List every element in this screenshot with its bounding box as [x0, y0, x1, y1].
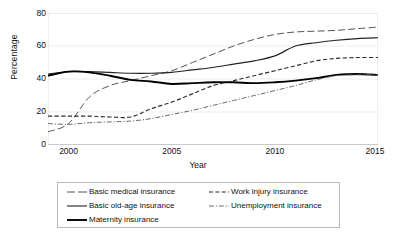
legend-label: Maternity insurance — [89, 215, 159, 224]
y-axis-tick-labels: 80 60 40 20 0 — [18, 0, 46, 150]
solid-thin-line-icon — [66, 202, 88, 210]
chart-figure: Percentage 80 60 40 20 0 2000 2005 2010 … — [0, 0, 396, 233]
legend-item-basic-medical-insurance[interactable]: Basic medical insurance — [66, 187, 175, 196]
legend-label: Basic old-age insurance — [89, 201, 174, 210]
legend-item-maternity-insurance[interactable]: Maternity insurance — [66, 215, 159, 224]
dashed-line-icon — [208, 188, 230, 196]
x-tick-2005: 2005 — [162, 147, 181, 156]
y-tick-60: 60 — [20, 41, 46, 50]
long-dash-line-icon — [66, 188, 88, 196]
dash-dot-line-icon — [208, 202, 230, 210]
legend-label: Unemployment insurance — [231, 201, 322, 210]
y-tick-20: 20 — [20, 107, 46, 116]
chart-legend: Basic medical insurance Work injury insu… — [57, 182, 340, 228]
y-tick-0: 0 — [20, 140, 46, 149]
legend-label: Basic medical insurance — [89, 187, 175, 196]
chart-svg — [48, 13, 378, 145]
legend-label: Work injury insurance — [231, 187, 308, 196]
x-tick-2015: 2015 — [366, 147, 385, 156]
x-tick-2010: 2010 — [265, 147, 284, 156]
x-axis-tick-labels: 2000 2005 2010 2015 — [48, 147, 378, 159]
y-tick-40: 40 — [20, 74, 46, 83]
legend-item-work-injury-insurance[interactable]: Work injury insurance — [208, 187, 308, 196]
chart-plot-region: Percentage 80 60 40 20 0 2000 2005 2010 … — [0, 0, 396, 176]
x-axis-title: Year — [0, 160, 396, 170]
y-tick-80: 80 — [20, 9, 46, 18]
x-tick-2000: 2000 — [59, 147, 78, 156]
solid-thick-line-icon — [66, 216, 88, 224]
legend-item-unemployment-insurance[interactable]: Unemployment insurance — [208, 201, 322, 210]
chart-lines-canvas — [48, 13, 378, 145]
legend-item-basic-old-age-insurance[interactable]: Basic old-age insurance — [66, 201, 174, 210]
